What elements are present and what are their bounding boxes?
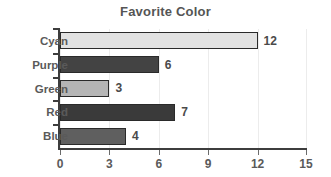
bar-value-label: 6 <box>165 59 172 71</box>
y-axis-tick <box>53 53 59 55</box>
x-axis-tick <box>306 150 307 155</box>
x-axis-tick <box>60 150 61 155</box>
bar-row: 12 <box>60 29 277 53</box>
x-axis-tick <box>159 150 160 155</box>
x-axis-tick <box>258 150 259 155</box>
x-axis-tick-label: 3 <box>94 157 124 171</box>
x-axis-line <box>58 148 307 150</box>
plot-area: 12 6 3 7 4 <box>60 29 307 148</box>
bar-row: 3 <box>60 77 122 101</box>
bar-row: 7 <box>60 100 188 124</box>
bar-chart: Favorite Color 12 6 3 7 4 <box>0 0 331 177</box>
y-axis-tick <box>53 124 59 126</box>
x-axis-tick <box>109 150 110 155</box>
bar-red[interactable] <box>60 104 175 121</box>
y-axis-tick <box>53 100 59 102</box>
bar-purple[interactable] <box>60 56 159 73</box>
bar-value-label: 7 <box>181 106 188 118</box>
y-axis-label-cyan: Cyan <box>0 35 68 47</box>
y-axis-label-blue: Blue <box>0 130 68 142</box>
x-axis-tick-label: 6 <box>144 157 174 171</box>
y-axis-label-purple: Purple <box>0 59 68 71</box>
x-axis-tick-label: 0 <box>45 157 75 171</box>
y-axis-tick <box>53 77 59 79</box>
y-axis-tick <box>53 28 59 30</box>
gridline-15 <box>306 29 307 148</box>
bar-value-label: 4 <box>132 130 139 142</box>
y-axis-label-red: Red <box>0 106 68 118</box>
bar-row: 4 <box>60 124 139 148</box>
x-axis-tick <box>208 150 209 155</box>
bar-row: 6 <box>60 53 171 77</box>
bar-blue[interactable] <box>60 128 126 145</box>
bar-value-label: 3 <box>115 82 122 94</box>
chart-title: Favorite Color <box>0 4 331 19</box>
x-axis-tick-label: 12 <box>243 157 273 171</box>
bar-cyan[interactable] <box>60 32 258 49</box>
bar-value-label: 12 <box>264 35 277 47</box>
y-axis-label-green: Green <box>0 83 68 95</box>
x-axis-tick-label: 15 <box>291 157 321 171</box>
x-axis-tick-label: 9 <box>193 157 223 171</box>
